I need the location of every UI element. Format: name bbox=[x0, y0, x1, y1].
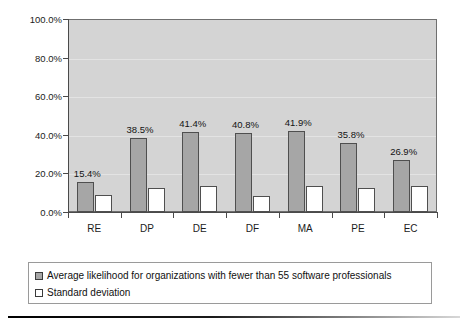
x-tick-label-ma: MA bbox=[298, 223, 313, 234]
bar-standard_deviation-pe bbox=[358, 188, 375, 212]
y-tick-label: 0.0% bbox=[6, 207, 62, 218]
bar-average_likelihood-pe bbox=[340, 143, 357, 212]
legend-label: Average likelihood for organizations wit… bbox=[47, 270, 391, 281]
legend-swatch-icon bbox=[35, 289, 43, 297]
x-tick-mark bbox=[332, 213, 333, 218]
x-tick-mark bbox=[437, 213, 438, 218]
bar-standard_deviation-de bbox=[200, 186, 217, 212]
x-tick-label-re: RE bbox=[87, 223, 101, 234]
y-tick-label: 20.0% bbox=[6, 168, 62, 179]
plot-area bbox=[68, 19, 437, 212]
y-tick-label: 100.0% bbox=[6, 14, 62, 25]
bar-value-label-pe: 35.8% bbox=[337, 129, 364, 140]
x-axis-line bbox=[68, 212, 438, 213]
y-tick-mark bbox=[63, 19, 68, 20]
x-tick-label-ec: EC bbox=[404, 223, 418, 234]
bar-average_likelihood-ma bbox=[288, 131, 305, 212]
bar-standard_deviation-re bbox=[95, 195, 112, 212]
legend-item-average-likelihood: Average likelihood for organizations wit… bbox=[35, 268, 431, 283]
bar-standard_deviation-df bbox=[253, 196, 270, 212]
bar-standard_deviation-ec bbox=[411, 186, 428, 212]
x-tick-label-pe: PE bbox=[351, 223, 364, 234]
gridline bbox=[69, 136, 436, 137]
y-tick-label: 40.0% bbox=[6, 129, 62, 140]
bar-value-label-df: 40.8% bbox=[232, 119, 259, 130]
gridline bbox=[69, 174, 436, 175]
gridline bbox=[69, 97, 436, 98]
x-tick-mark bbox=[226, 213, 227, 218]
bar-value-label-ma: 41.9% bbox=[285, 117, 312, 128]
bar-standard_deviation-ma bbox=[306, 186, 323, 212]
x-tick-mark bbox=[384, 213, 385, 218]
legend-item-standard-deviation: Standard deviation bbox=[35, 285, 431, 300]
x-tick-mark bbox=[279, 213, 280, 218]
gridline bbox=[69, 59, 436, 60]
y-tick-mark bbox=[63, 96, 68, 97]
y-tick-mark bbox=[63, 173, 68, 174]
y-tick-label: 80.0% bbox=[6, 52, 62, 63]
legend-label: Standard deviation bbox=[47, 287, 130, 298]
chart-legend: Average likelihood for organizations wit… bbox=[28, 262, 432, 304]
bottom-rule-divider bbox=[8, 316, 460, 318]
bar-average_likelihood-ec bbox=[393, 160, 410, 212]
bar-value-label-de: 41.4% bbox=[179, 118, 206, 129]
bar-chart-figure: 100.0% 80.0% 60.0% 40.0% 20.0% 0.0% RE D… bbox=[0, 0, 468, 325]
legend-swatch-icon bbox=[35, 272, 43, 280]
y-axis-line bbox=[68, 19, 69, 213]
x-tick-mark bbox=[173, 213, 174, 218]
bar-average_likelihood-re bbox=[77, 182, 94, 212]
x-tick-label-de: DE bbox=[193, 223, 207, 234]
bar-value-label-dp: 38.5% bbox=[127, 124, 154, 135]
bar-value-label-ec: 26.9% bbox=[390, 146, 417, 157]
x-tick-label-df: DF bbox=[246, 223, 259, 234]
y-tick-mark bbox=[63, 58, 68, 59]
bar-value-label-re: 15.4% bbox=[74, 168, 101, 179]
x-tick-label-dp: DP bbox=[140, 223, 154, 234]
y-tick-label: 60.0% bbox=[6, 91, 62, 102]
bar-average_likelihood-df bbox=[235, 133, 252, 212]
x-tick-mark bbox=[68, 213, 69, 218]
x-tick-mark bbox=[121, 213, 122, 218]
bar-average_likelihood-dp bbox=[130, 138, 147, 212]
y-tick-mark bbox=[63, 135, 68, 136]
bar-standard_deviation-dp bbox=[148, 188, 165, 212]
bar-average_likelihood-de bbox=[182, 132, 199, 212]
